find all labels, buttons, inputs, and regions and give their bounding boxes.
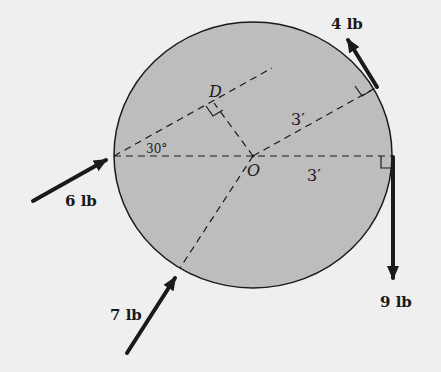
center-point — [252, 155, 255, 158]
angle-label: 30° — [146, 142, 167, 156]
dimension-upper: 3′ — [291, 110, 305, 129]
center-label: O — [247, 161, 260, 180]
force-7lb-label: 7 lb — [110, 306, 142, 324]
force-4lb-label: 4 lb — [331, 15, 363, 33]
force-9lb-label: 9 lb — [380, 293, 412, 311]
foot-label: D — [208, 82, 222, 101]
dimension-lower: 3′ — [307, 166, 321, 185]
force-diagram: O D 30° 3′ 3′ 4 lb 6 lb 7 lb 9 lb — [0, 0, 441, 372]
force-6lb-label: 6 lb — [65, 192, 97, 210]
